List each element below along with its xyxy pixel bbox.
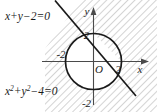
figure-canvas: 2 -2 2 -2 O x y x+y−2=0 x2+y2−4=0 [0,0,157,112]
y-tick-label-2: 2 [84,29,90,41]
circle-equation-mid: +y [14,85,28,98]
x-tick-label-negative-2: -2 [56,48,66,60]
coordinate-plane-diagram: 2 -2 2 -2 O x y x+y−2=0 x2+y2−4=0 [0,0,157,112]
circle-equation-label: x2+y2−4=0 [4,84,58,98]
circle-equation-tail: −4=0 [30,85,57,97]
line-equation-label: x+y−2=0 [4,10,50,23]
x-axis-label: x [137,63,143,75]
y-tick-label-negative-2: -2 [82,97,92,109]
x-tick-label-2: 2 [115,63,121,75]
origin-label: O [95,63,103,75]
y-axis-label: y [84,5,90,17]
